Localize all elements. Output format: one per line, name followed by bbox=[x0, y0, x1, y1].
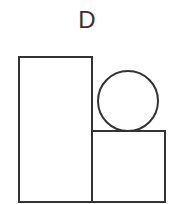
shape-diagram bbox=[0, 0, 174, 204]
square bbox=[92, 131, 165, 202]
circle bbox=[98, 71, 158, 131]
tall-rectangle bbox=[19, 57, 92, 202]
